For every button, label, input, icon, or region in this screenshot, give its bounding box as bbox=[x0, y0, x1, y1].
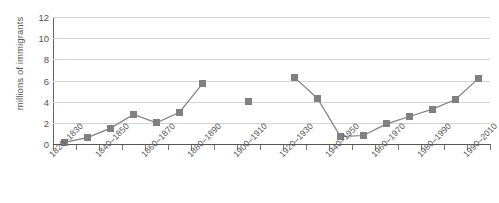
data-point-marker bbox=[176, 109, 183, 116]
data-point-marker bbox=[314, 95, 321, 102]
y-tick-label: 6 bbox=[25, 76, 49, 85]
data-point-marker bbox=[153, 119, 160, 126]
data-point-marker bbox=[406, 113, 413, 120]
x-tick bbox=[444, 145, 445, 150]
y-tick-label: 0 bbox=[25, 140, 49, 149]
data-point-marker bbox=[199, 80, 206, 87]
x-tick bbox=[214, 145, 215, 150]
x-tick bbox=[122, 145, 123, 150]
y-tick-label: 10 bbox=[25, 34, 49, 43]
x-tick bbox=[398, 145, 399, 150]
y-tick-label: 8 bbox=[25, 55, 49, 64]
data-point-marker bbox=[452, 96, 459, 103]
x-tick bbox=[490, 145, 491, 150]
y-tick-label: 12 bbox=[25, 13, 49, 22]
data-point-marker bbox=[84, 134, 91, 141]
data-point-marker bbox=[130, 111, 137, 118]
x-tick bbox=[306, 145, 307, 150]
data-point-marker bbox=[475, 75, 482, 82]
x-tick bbox=[260, 145, 261, 150]
y-tick-label: 2 bbox=[25, 118, 49, 127]
y-tick-label: 4 bbox=[25, 97, 49, 106]
x-tick bbox=[168, 145, 169, 150]
data-point-marker bbox=[360, 132, 367, 139]
data-point-marker bbox=[245, 98, 252, 105]
x-tick bbox=[352, 145, 353, 150]
x-tick bbox=[76, 145, 77, 150]
data-point-marker bbox=[291, 74, 298, 81]
y-axis-tick-labels: 024681012 bbox=[23, 0, 49, 203]
data-point-marker bbox=[383, 120, 390, 127]
data-point-marker bbox=[429, 106, 436, 113]
